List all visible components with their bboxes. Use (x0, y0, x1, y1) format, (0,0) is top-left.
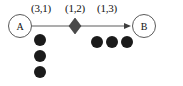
token-dot (121, 36, 133, 48)
arrowhead-icon (124, 23, 131, 29)
token-dot (106, 36, 118, 48)
node-a[interactable]: A (8, 14, 32, 38)
token-dot (34, 34, 46, 46)
edge-label-middle: (1,2) (65, 2, 85, 14)
edge-label-right: (1,3) (97, 2, 117, 14)
node-a-label: A (16, 21, 23, 32)
diagram-canvas: (3,1) (1,2) (1,3) A B (0, 0, 183, 86)
diamond-transition-icon (69, 18, 81, 34)
token-dot (34, 50, 46, 62)
edge-label-left: (3,1) (31, 2, 51, 14)
node-b[interactable]: B (132, 14, 156, 38)
token-dot (34, 66, 46, 78)
node-b-label: B (141, 21, 148, 32)
token-dot (91, 36, 103, 48)
